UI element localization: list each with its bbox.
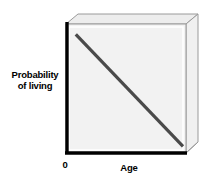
y-axis-label: Probability of living [4, 69, 66, 91]
y-axis-label-line-1: Probability [12, 69, 59, 80]
x-axis-label: Age [101, 162, 157, 173]
y-axis-label-line-2: of living [4, 80, 66, 91]
origin-tick-label: 0 [58, 159, 72, 170]
box-top-face [66, 14, 198, 24]
figure-container: Probability of living Age 0 [0, 0, 215, 184]
box-side-face [186, 14, 198, 153]
plot-area [0, 0, 215, 184]
